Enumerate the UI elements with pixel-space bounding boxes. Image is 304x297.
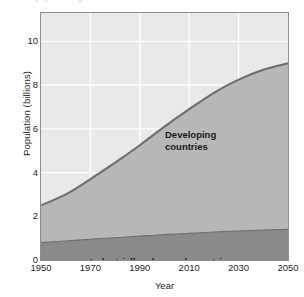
y-tick-6: 6 — [0, 124, 38, 134]
y-tick-8: 8 — [0, 80, 38, 90]
x-tick-1950: 1950 — [19, 263, 63, 273]
population-growth-area-chart: population growth Population (billions) … — [0, 0, 304, 297]
y-tick-4: 4 — [0, 168, 38, 178]
x-tick-1990: 1990 — [118, 263, 162, 273]
x-tick-2030: 2030 — [217, 263, 261, 273]
series-label-industrially-advanced-countries: Industrially advanced countries — [90, 256, 233, 261]
series-label-developing-countries: Developing countries — [165, 129, 216, 152]
x-tick-2050: 2050 — [266, 263, 304, 273]
clipped-caption-text: population growth — [36, 0, 276, 2]
y-tick-10: 10 — [0, 36, 38, 46]
x-tick-2010: 2010 — [167, 263, 211, 273]
x-axis-title: Year — [40, 280, 289, 291]
plot-area: Developing countries Industrially advanc… — [40, 12, 289, 261]
x-tick-1970: 1970 — [68, 263, 112, 273]
y-tick-2: 2 — [0, 211, 38, 221]
